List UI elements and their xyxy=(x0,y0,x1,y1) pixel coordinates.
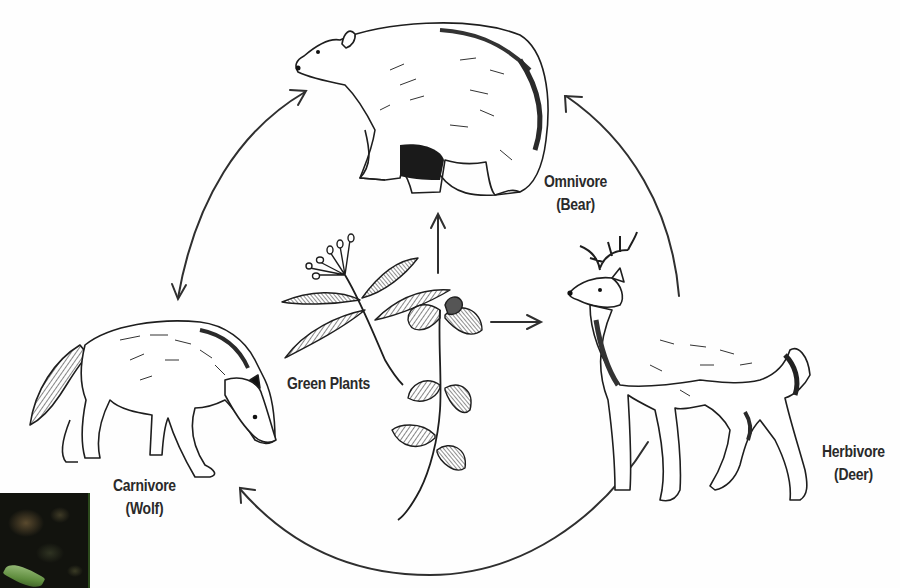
label-herbivore-example: (Deer) xyxy=(822,463,885,486)
label-carnivore: Carnivore (Wolf) xyxy=(113,474,176,520)
label-carnivore-example: (Wolf) xyxy=(113,497,176,520)
wolf-illustration xyxy=(30,321,276,477)
label-herbivore: Herbivore (Deer) xyxy=(822,440,885,486)
label-omnivore-name: Omnivore xyxy=(544,170,607,193)
label-green-plants-name: Green Plants xyxy=(287,372,370,395)
deer-illustration xyxy=(567,232,810,501)
label-herbivore-name: Herbivore xyxy=(822,440,885,463)
label-green-plants: Green Plants xyxy=(287,372,370,395)
bear-illustration xyxy=(296,23,549,195)
food-web-diagram: Omnivore (Bear) Herbivore (Deer) Carnivo… xyxy=(0,0,900,588)
arrow-wolf-bear xyxy=(178,92,305,298)
label-omnivore: Omnivore (Bear) xyxy=(544,170,607,216)
arrowhead-bear-right xyxy=(565,96,582,112)
label-omnivore-example: (Bear) xyxy=(544,193,607,216)
label-carnivore-name: Carnivore xyxy=(113,474,176,497)
